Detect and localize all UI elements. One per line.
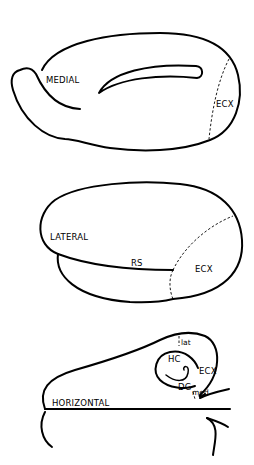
horizontal-dentate-spiral <box>166 367 188 381</box>
diagram-canvas: MEDIAL ECX LATERAL RS ECX HORIZONTAL HC <box>0 0 254 465</box>
lateral-rhinal-sulcus <box>58 254 173 270</box>
lateral-ecx-boundary-upper <box>173 216 233 270</box>
horizontal-lower-right-hook <box>207 418 228 427</box>
lateral-ecx-boundary-lower <box>170 270 173 299</box>
horizontal-dg-label: DG <box>178 382 192 392</box>
horizontal-label: HORIZONTAL <box>52 398 110 408</box>
lateral-rs-label: RS <box>131 258 143 268</box>
horizontal-view-panel: HORIZONTAL HC ECX DG lat med <box>41 333 230 455</box>
horizontal-hc-label: HC <box>168 354 181 364</box>
horizontal-lower-left-curve <box>41 412 52 447</box>
horizontal-ecx-label: ECX <box>199 366 217 376</box>
medial-view-panel: MEDIAL ECX <box>12 33 240 150</box>
lateral-lower-lobe-outline <box>58 254 173 302</box>
lateral-ecx-label: ECX <box>195 264 213 274</box>
lateral-view-panel: LATERAL RS ECX <box>40 182 242 302</box>
medial-ecx-label: ECX <box>216 99 234 109</box>
medial-hemisphere-outline <box>12 33 240 150</box>
medial-label: MEDIAL <box>46 75 80 85</box>
horizontal-med-label: med <box>192 388 209 397</box>
brain-views-diagram: MEDIAL ECX LATERAL RS ECX HORIZONTAL HC <box>0 0 254 465</box>
horizontal-lat-label: lat <box>181 338 191 347</box>
lateral-label: LATERAL <box>50 232 88 242</box>
medial-hippocampal-arc <box>99 65 202 93</box>
horizontal-lower-right-curve <box>207 418 216 455</box>
